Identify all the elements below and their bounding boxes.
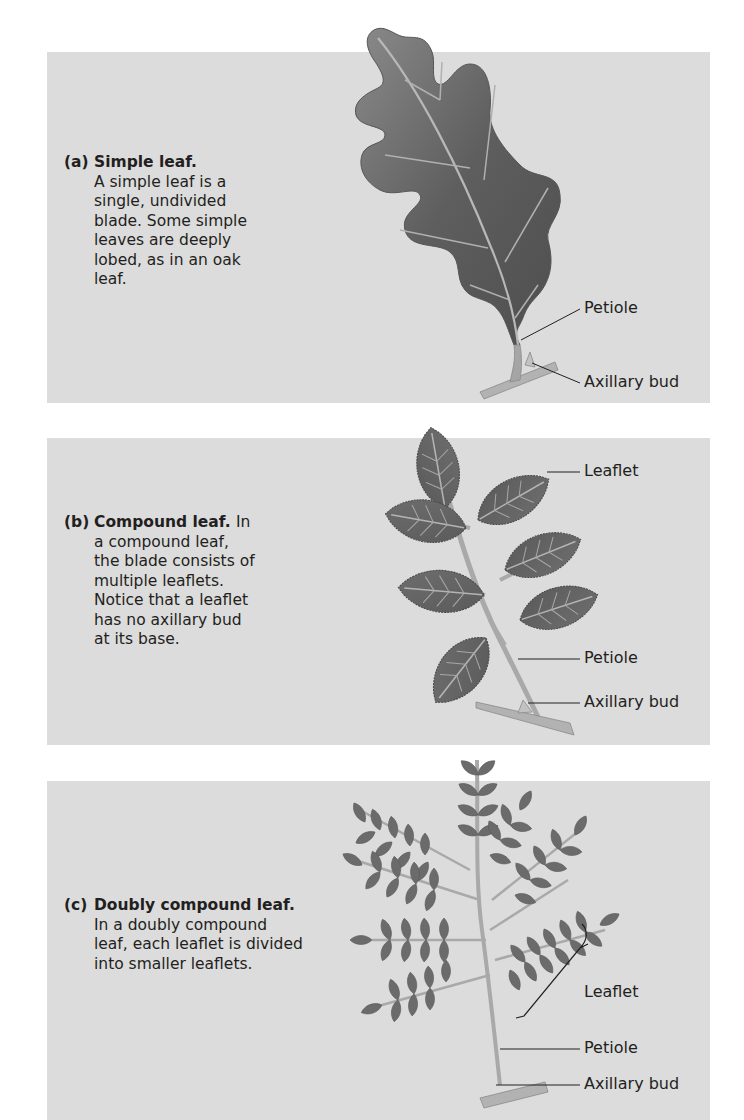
caption-compound-leaf: (b)Compound leaf. In a compound leaf, th… — [64, 513, 255, 650]
label-petiole: Petiole — [584, 298, 638, 317]
caption-heading: (c)Doubly compound leaf. — [64, 896, 303, 916]
caption-simple-leaf: (a)Simple leaf. A simple leaf is a singl… — [64, 153, 247, 290]
caption-heading: (a)Simple leaf. — [64, 153, 247, 173]
label-petiole: Petiole — [584, 1038, 638, 1057]
label-leaflet: Leaflet — [584, 982, 638, 1001]
oak-leaf-icon — [355, 28, 560, 399]
label-petiole: Petiole — [584, 648, 638, 667]
caption-heading: (b)Compound leaf. In — [64, 513, 255, 533]
label-axillary-bud: Axillary bud — [584, 372, 679, 391]
label-leaflet: Leaflet — [584, 461, 638, 480]
doubly-compound-leaf-icon — [341, 757, 622, 1108]
label-axillary-bud: Axillary bud — [584, 692, 679, 711]
compound-leaf-icon — [382, 424, 604, 735]
label-axillary-bud: Axillary bud — [584, 1074, 679, 1093]
caption-doubly-compound-leaf: (c)Doubly compound leaf. In a doubly com… — [64, 896, 303, 974]
